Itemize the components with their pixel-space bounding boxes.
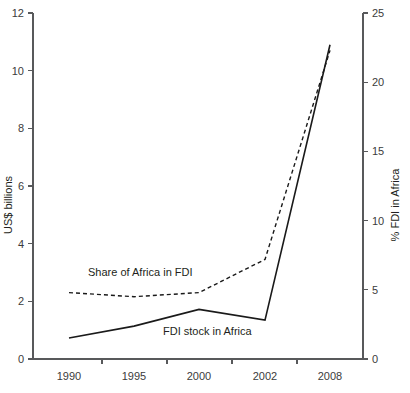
right-axis-tick-20: 20: [372, 76, 384, 88]
left-axis-tick-0: 0: [18, 353, 24, 365]
left-axis-tick-10: 10: [12, 65, 24, 77]
right-axis-title: % FDI in Africa: [389, 168, 401, 242]
left-axis-tick-4: 4: [18, 238, 24, 250]
x-axis-tick-1990: 1990: [57, 370, 81, 382]
right-axis: 25 20 15 10 5 0 % FDI in Africa: [363, 7, 401, 365]
left-axis: 12 10 8 6 4 2 0 US$ billions: [2, 7, 33, 365]
x-axis-tick-2000: 2000: [187, 370, 211, 382]
series-label-share-of-africa-in-fdi: Share of Africa in FDI: [88, 266, 193, 278]
right-axis-tick-0: 0: [372, 353, 378, 365]
chart-container: 12 10 8 6 4 2 0 US$ billions 25 20 15 10…: [0, 0, 410, 393]
x-axis-tick-1995: 1995: [122, 370, 146, 382]
right-axis-tick-25: 25: [372, 7, 384, 19]
left-axis-tick-2: 2: [18, 295, 24, 307]
left-axis-tick-8: 8: [18, 122, 24, 134]
series-label-fdi-stock-in-africa: FDI stock in Africa: [163, 325, 253, 337]
left-axis-tick-12: 12: [12, 7, 24, 19]
left-axis-title: US$ billions: [2, 175, 14, 234]
x-axis-tick-2008: 2008: [318, 370, 342, 382]
x-axis-tick-2002: 2002: [253, 370, 277, 382]
right-axis-tick-5: 5: [372, 284, 378, 296]
line-chart: 12 10 8 6 4 2 0 US$ billions 25 20 15 10…: [0, 0, 410, 393]
left-axis-tick-6: 6: [18, 180, 24, 192]
x-axis: 1990 1995 2000 2002 2008: [33, 359, 363, 382]
series-line-fdi-stock-in-africa: [69, 45, 330, 338]
right-axis-tick-15: 15: [372, 145, 384, 157]
series-line-share-of-africa-in-fdi: [69, 50, 330, 296]
right-axis-tick-10: 10: [372, 215, 384, 227]
